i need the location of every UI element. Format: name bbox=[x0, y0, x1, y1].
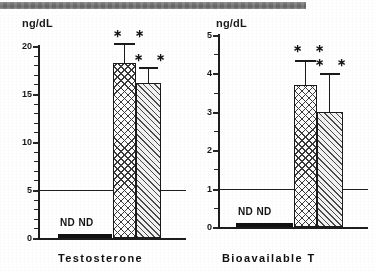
y-tick-label-15: 15 bbox=[10, 89, 32, 99]
reference-line-5 bbox=[38, 190, 186, 191]
y-axis-unit-label: ng/dL bbox=[216, 17, 247, 29]
x-axis-line bbox=[38, 238, 186, 240]
chart-panel-bioavailable-t: ng/dL 5 4 3 2 1 0 ∗ ∗ bbox=[190, 0, 376, 271]
error-bar-stem bbox=[329, 73, 330, 112]
y-tick-minor bbox=[34, 65, 38, 66]
error-bar-cap bbox=[295, 60, 316, 62]
y-tick-major-3 bbox=[213, 112, 218, 114]
y-tick-minor bbox=[34, 123, 38, 124]
y-tick-minor bbox=[34, 200, 38, 201]
y-axis-line bbox=[218, 34, 220, 228]
y-tick-minor bbox=[34, 180, 38, 181]
y-tick-minor bbox=[34, 219, 38, 220]
nd-bar-group1 bbox=[58, 234, 112, 238]
bar-bioavailable-diagonal bbox=[317, 112, 343, 227]
y-tick-label-10: 10 bbox=[10, 137, 32, 147]
y-tick-label-20: 20 bbox=[10, 41, 32, 51]
error-bar-cap bbox=[114, 43, 135, 45]
error-bar-bioavailable-crosshatch bbox=[295, 60, 316, 85]
y-tick-minor bbox=[34, 209, 38, 210]
y-tick-minor bbox=[214, 131, 218, 132]
error-bar-bioavailable-diagonal bbox=[320, 73, 340, 112]
y-tick-major-0 bbox=[33, 238, 38, 240]
y-tick-minor bbox=[214, 93, 218, 94]
nd-label-testosterone: ND ND bbox=[60, 217, 94, 228]
plot-area-bioavailable-t: 5 4 3 2 1 0 ∗ ∗ ∗ ∗ ND ND bbox=[218, 29, 368, 239]
y-tick-major-15 bbox=[33, 94, 38, 96]
y-tick-minor bbox=[214, 54, 218, 55]
bar-bioavailable-crosshatch bbox=[294, 85, 317, 227]
error-bar-stem bbox=[148, 67, 149, 83]
error-bar-cap bbox=[139, 67, 158, 69]
y-tick-major-2 bbox=[213, 150, 218, 152]
y-tick-label-0: 0 bbox=[10, 233, 32, 243]
error-bar-stem bbox=[124, 43, 125, 63]
y-tick-label-4: 4 bbox=[192, 68, 212, 78]
y-axis-unit-label: ng/dL bbox=[22, 17, 53, 29]
y-tick-minor bbox=[34, 132, 38, 133]
bar-testosterone-crosshatch bbox=[113, 63, 136, 238]
significance-stars-crosshatch: ∗ ∗ bbox=[113, 28, 143, 39]
y-tick-minor bbox=[34, 113, 38, 114]
y-tick-major-5 bbox=[213, 35, 218, 37]
y-axis-line bbox=[38, 45, 40, 239]
plot-area-testosterone: 20 15 10 5 0 ∗ ∗ ∗ ∗ ND ND bbox=[38, 40, 186, 245]
y-tick-minor bbox=[214, 169, 218, 170]
significance-stars-diagonal: ∗ ∗ bbox=[315, 57, 347, 68]
error-bar-testosterone-diagonal bbox=[139, 67, 158, 83]
y-tick-major-0 bbox=[213, 227, 218, 229]
y-tick-label-1: 1 bbox=[192, 184, 212, 194]
nd-label-bioavailable: ND ND bbox=[238, 206, 272, 217]
error-bar-cap bbox=[320, 73, 340, 75]
chart-panel-testosterone: ng/dL 20 15 10 5 0 bbox=[0, 0, 190, 271]
x-axis-line bbox=[218, 227, 368, 229]
y-tick-label-5: 5 bbox=[10, 185, 32, 195]
y-tick-minor bbox=[34, 84, 38, 85]
reference-line-1 bbox=[218, 189, 368, 190]
x-axis-title-bioavailable-t: Bioavailable T bbox=[222, 252, 316, 264]
y-tick-major-4 bbox=[213, 73, 218, 75]
y-tick-minor bbox=[34, 161, 38, 162]
y-tick-label-5: 5 bbox=[192, 30, 212, 40]
bar-testosterone-diagonal bbox=[136, 83, 161, 238]
y-tick-minor bbox=[34, 171, 38, 172]
y-tick-label-0: 0 bbox=[192, 222, 212, 232]
y-tick-minor bbox=[214, 208, 218, 209]
significance-stars-diagonal: ∗ ∗ bbox=[134, 52, 166, 63]
y-tick-minor bbox=[34, 56, 38, 57]
x-axis-title-testosterone: Testosterone bbox=[58, 252, 143, 264]
y-tick-label-3: 3 bbox=[192, 107, 212, 117]
y-tick-minor bbox=[34, 152, 38, 153]
y-tick-minor bbox=[34, 104, 38, 105]
y-tick-major-10 bbox=[33, 142, 38, 144]
nd-bar-group1 bbox=[236, 223, 293, 227]
y-tick-minor bbox=[34, 228, 38, 229]
error-bar-stem bbox=[305, 60, 306, 85]
y-tick-minor bbox=[34, 75, 38, 76]
significance-stars-crosshatch: ∗ ∗ bbox=[293, 43, 323, 54]
error-bar-testosterone-crosshatch bbox=[114, 43, 135, 63]
y-tick-major-20 bbox=[33, 46, 38, 48]
y-tick-label-2: 2 bbox=[192, 145, 212, 155]
